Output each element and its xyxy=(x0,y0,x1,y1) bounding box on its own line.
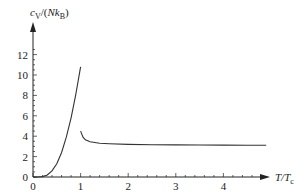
y-tick-label: 0 xyxy=(23,171,29,183)
axes xyxy=(30,22,270,180)
y-tick-label: 6 xyxy=(23,110,29,122)
cv-chart: 01234024681012 cV/(NkB) T/Tc xyxy=(0,0,306,196)
x-axis-arrow-icon xyxy=(260,174,270,180)
x-tick-label: 3 xyxy=(173,180,179,192)
y-axis-arrow-icon xyxy=(30,22,36,32)
x-axis-title: T/Tc xyxy=(275,171,294,186)
tick-labels: 01234024681012 xyxy=(17,49,227,192)
y-tick-label: 10 xyxy=(17,69,29,81)
y-tick-label: 12 xyxy=(17,49,28,61)
x-tick-label: 4 xyxy=(221,180,227,192)
curve-above-tc xyxy=(81,131,267,145)
x-tick-label: 1 xyxy=(78,180,84,192)
y-tick-label: 8 xyxy=(23,89,29,101)
y-tick-label: 4 xyxy=(23,130,29,142)
y-tick-label: 2 xyxy=(23,151,29,163)
x-tick-label: 2 xyxy=(125,180,131,192)
x-tick-label: 0 xyxy=(30,180,36,192)
curve-below-tc xyxy=(33,67,81,177)
curves xyxy=(33,67,266,177)
y-axis-title: cV/(NkB) xyxy=(30,6,69,21)
